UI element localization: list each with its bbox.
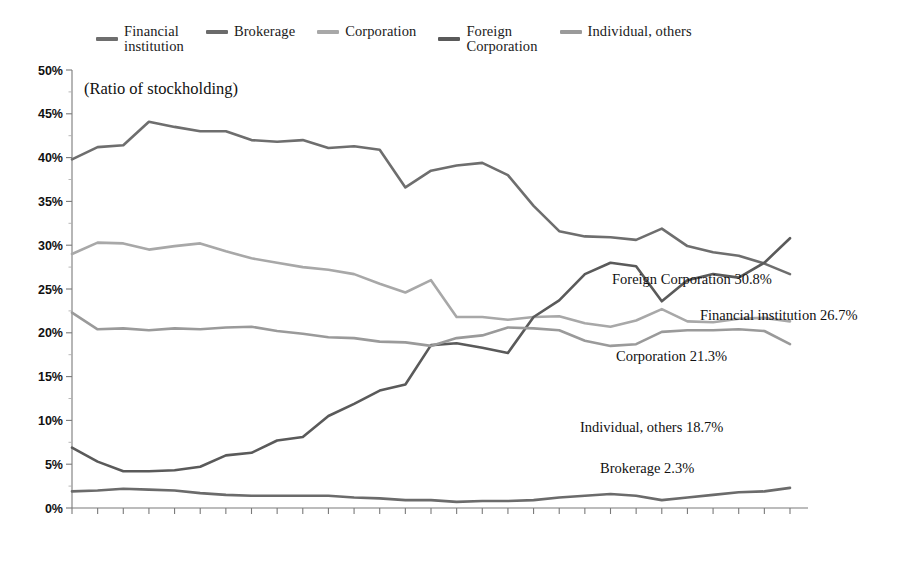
y-axis-tick-label: 45% [38, 107, 63, 121]
y-axis-tick-label: 15% [38, 370, 63, 384]
legend-label-corporation: Corporation [345, 24, 416, 39]
y-axis-tick-label: 35% [38, 195, 63, 209]
legend-label-brokerage: Brokerage [234, 24, 295, 39]
plot-title: (Ratio of stockholding) [84, 79, 238, 98]
y-axis-tick-label: 0% [45, 502, 63, 516]
chart-root: Financial institution Brokerage Corporat… [0, 0, 910, 573]
y-axis-tick-label: 30% [38, 239, 63, 253]
y-axis-tick-label: 50% [38, 64, 63, 78]
legend-swatch-individual-others [560, 30, 582, 34]
series-line-brokerage [72, 488, 790, 502]
legend-item-corporation: Corporation [317, 24, 416, 39]
annotation-corporation: Corporation 21.3% [616, 348, 727, 364]
legend-label-financial-institution: Financial institution [124, 24, 184, 54]
y-axis-tick-label: 40% [38, 151, 63, 165]
legend-label-individual-others: Individual, others [588, 24, 692, 39]
y-axis-tick-label: 20% [38, 326, 63, 340]
y-axis-tick-label: 25% [38, 283, 63, 297]
legend-item-financial-institution: Financial institution [96, 24, 184, 54]
annotation-individual-others: Individual, others 18.7% [580, 419, 723, 435]
legend-item-brokerage: Brokerage [206, 24, 295, 39]
legend-swatch-corporation [317, 30, 339, 34]
legend-item-individual-others: Individual, others [560, 24, 692, 39]
legend-label-foreign-corporation: Foreign Corporation [466, 24, 537, 54]
y-axis-tick-label: 10% [38, 414, 63, 428]
series-line-financial-institution [72, 122, 790, 274]
legend-swatch-foreign-corporation [438, 37, 460, 41]
legend-swatch-brokerage [206, 30, 228, 34]
y-axis-tick-label: 5% [45, 458, 63, 472]
legend-swatch-financial-institution [96, 37, 118, 41]
chart-legend: Financial institution Brokerage Corporat… [96, 24, 836, 64]
annotation-foreign-corporation: Foreign Corporation 30.8% [612, 271, 772, 287]
line-chart-svg: 0%5%10%15%20%25%30%35%40%45%50%198519861… [0, 60, 910, 515]
annotation-brokerage: Brokerage 2.3% [600, 460, 694, 476]
legend-item-foreign-corporation: Foreign Corporation [438, 24, 537, 54]
plot-area: 0%5%10%15%20%25%30%35%40%45%50%198519861… [0, 60, 910, 515]
annotation-financial-institution: Financial institution 26.7% [700, 307, 857, 323]
